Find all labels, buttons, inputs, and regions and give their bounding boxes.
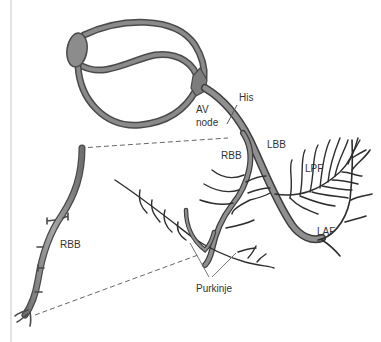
sa-node [65, 32, 90, 68]
label-purkinje: Purkinje [196, 283, 233, 294]
internodal-pathways [78, 22, 204, 125]
left-border-rule [10, 0, 12, 342]
label-av-node-line1: AV [196, 104, 209, 115]
conduction-diagram: His AV node LBB RBB LPF LAF RBB Purkinje [0, 0, 381, 342]
label-laf: LAF [317, 226, 335, 237]
diagram-canvas: His AV node LBB RBB LPF LAF RBB Purkinje [0, 0, 381, 342]
label-his: His [239, 92, 253, 103]
label-rbb-inset: RBB [60, 239, 81, 250]
label-lbb: LBB [267, 139, 286, 150]
label-lpf: LPF [305, 163, 323, 174]
rbb-purkinje-network [115, 170, 274, 268]
label-av-node-line2: node [196, 117, 219, 128]
rbb-inset [15, 148, 82, 326]
label-rbb-main: RBB [221, 150, 242, 161]
